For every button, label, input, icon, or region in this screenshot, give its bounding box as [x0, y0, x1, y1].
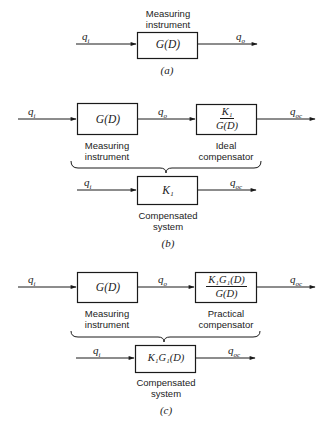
- b-compensated-block-k1-text: K₁: [138, 185, 198, 197]
- signal-subscript: i: [88, 37, 90, 45]
- caption-b: (b): [158, 238, 178, 249]
- signal-subscript: i: [99, 351, 101, 359]
- fraction-denominator: G(D): [196, 287, 257, 299]
- caption-a: (a): [157, 65, 177, 76]
- b-measuring-instrument-label: Measuring instrument: [76, 140, 138, 162]
- label-line: compensator: [190, 319, 262, 330]
- c-output-signal-qoc: qoc: [290, 274, 302, 288]
- c-compensated-block-k1g1-text: K₁G₁(D): [136, 353, 196, 364]
- signal-subscript: oc: [296, 112, 303, 120]
- c-input-signal-qi: qi: [28, 274, 35, 288]
- label-line: Measuring: [76, 140, 138, 151]
- b-block-g-text: G(D): [78, 114, 138, 126]
- a-input-signal-qi: qi: [82, 31, 89, 45]
- c-compensated-system-label: Compensated system: [130, 377, 202, 399]
- fraction-numerator: K₁G₁(D): [206, 274, 246, 287]
- signal-subscript: oc: [296, 280, 303, 288]
- fraction-numerator: K₁: [220, 106, 235, 119]
- b-ideal-compensator-fraction: K₁ G(D): [197, 106, 257, 131]
- signal-subscript: o: [242, 37, 246, 45]
- b-combined-output-signal-qoc: qoc: [230, 177, 242, 191]
- c-block-g-text: G(D): [78, 282, 138, 294]
- a-measuring-instrument-label: Measuring instrument: [137, 8, 199, 30]
- b-compensated-system-label: Compensated system: [132, 210, 204, 232]
- signal-subscript: i: [34, 280, 36, 288]
- label-line: Measuring: [76, 308, 138, 319]
- c-combined-output-signal-qoc: qoc: [228, 345, 240, 359]
- label-line: system: [132, 221, 204, 232]
- label-line: instrument: [76, 151, 138, 162]
- signal-subscript: oc: [236, 183, 243, 191]
- a-block-g-text: G(D): [138, 39, 198, 51]
- c-practical-compensator-fraction: K₁G₁(D) G(D): [196, 274, 257, 299]
- signal-subscript: o: [164, 280, 168, 288]
- label-line: Compensated: [130, 377, 202, 388]
- b-ideal-compensator-label: Ideal compensator: [190, 140, 262, 162]
- label-line: Measuring: [137, 8, 199, 19]
- b-combined-input-signal-qi: qi: [84, 177, 91, 191]
- signal-subscript: i: [90, 183, 92, 191]
- caption-c: (c): [156, 405, 176, 416]
- b-mid-signal-qo: qo: [158, 106, 167, 120]
- label-line: Practical: [190, 308, 262, 319]
- label-line: Compensated: [132, 210, 204, 221]
- label-line: compensator: [190, 151, 262, 162]
- a-output-signal-qo: qo: [236, 31, 245, 45]
- c-measuring-instrument-label: Measuring instrument: [76, 308, 138, 330]
- signal-subscript: o: [164, 112, 168, 120]
- label-line: instrument: [76, 319, 138, 330]
- b-output-signal-qoc: qoc: [290, 106, 302, 120]
- label-line: system: [130, 388, 202, 399]
- b-input-signal-qi: qi: [28, 106, 35, 120]
- signal-subscript: oc: [234, 351, 241, 359]
- c-combined-input-signal-qi: qi: [93, 345, 100, 359]
- c-mid-signal-qo: qo: [158, 274, 167, 288]
- fraction-denominator: G(D): [197, 119, 257, 131]
- label-line: Ideal: [190, 140, 262, 151]
- c-practical-compensator-label: Practical compensator: [190, 308, 262, 330]
- signal-subscript: i: [34, 112, 36, 120]
- label-line: instrument: [137, 19, 199, 30]
